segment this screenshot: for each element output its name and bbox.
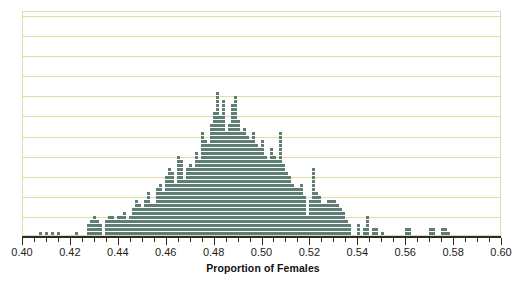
dot [180, 176, 183, 179]
dot [312, 180, 315, 183]
dot [222, 116, 225, 119]
dot [279, 140, 282, 143]
dot [201, 136, 204, 139]
dot [111, 216, 114, 219]
x-tick-major [22, 238, 23, 245]
x-tick-minor [465, 238, 466, 242]
dot [303, 208, 306, 211]
dot [201, 132, 204, 135]
dot [261, 144, 264, 147]
dot [288, 176, 291, 179]
dot [45, 232, 48, 235]
dot [339, 208, 342, 211]
x-tick-minor [202, 238, 203, 242]
x-tick-label: 0.58 [442, 246, 463, 258]
dot [303, 204, 306, 207]
x-tick-minor [154, 238, 155, 242]
x-tick-label: 0.42 [59, 246, 80, 258]
dot [318, 196, 321, 199]
dot [234, 96, 237, 99]
dot [312, 168, 315, 171]
dot [288, 180, 291, 183]
dot [216, 96, 219, 99]
x-tick-minor [417, 238, 418, 242]
dot [234, 104, 237, 107]
dot [234, 100, 237, 103]
x-tick-major [166, 238, 167, 245]
dot [99, 232, 102, 235]
x-tick-label: 0.50 [251, 246, 272, 258]
dot [312, 172, 315, 175]
x-tick-minor [82, 238, 83, 242]
dot [216, 108, 219, 111]
dot [216, 92, 219, 95]
dot [444, 228, 447, 231]
x-tick-label: 0.44 [107, 246, 128, 258]
dot [279, 152, 282, 155]
dot [51, 232, 54, 235]
dot [93, 216, 96, 219]
dot [222, 128, 225, 131]
dot [357, 232, 360, 235]
dot [123, 212, 126, 215]
dot [234, 112, 237, 115]
x-tick-minor [489, 238, 490, 242]
dot [333, 200, 336, 203]
dot [312, 176, 315, 179]
x-tick-minor [34, 238, 35, 242]
x-tick-minor [297, 238, 298, 242]
dot [300, 184, 303, 187]
dot [366, 228, 369, 231]
dot [147, 192, 150, 195]
x-tick-minor [393, 238, 394, 242]
dot [270, 152, 273, 155]
x-tick-major [357, 238, 358, 245]
dot [366, 220, 369, 223]
dot [348, 224, 351, 227]
dot [243, 128, 246, 131]
dot [252, 140, 255, 143]
x-axis-title: Proportion of Females [0, 262, 526, 274]
dot [432, 228, 435, 231]
dot [180, 160, 183, 163]
dot [222, 124, 225, 127]
dot [237, 124, 240, 127]
x-tick-major [118, 238, 119, 245]
chart-figure: Sampling Distribution of Proportion 0.40… [0, 0, 526, 283]
x-tick-minor [273, 238, 274, 242]
dot [180, 164, 183, 167]
dot [138, 204, 141, 207]
x-tick-minor [46, 238, 47, 242]
dot [342, 212, 345, 215]
dot [216, 104, 219, 107]
dot [279, 160, 282, 163]
dot [432, 232, 435, 235]
dot [303, 200, 306, 203]
dot [273, 156, 276, 159]
x-tick-minor [369, 238, 370, 242]
dot [282, 164, 285, 167]
dot [312, 184, 315, 187]
dot [195, 152, 198, 155]
dot [348, 232, 351, 235]
dot [216, 112, 219, 115]
x-tick-label: 0.48 [203, 246, 224, 258]
dot [57, 232, 60, 235]
x-tick-major [70, 238, 71, 245]
dot [234, 108, 237, 111]
dot [195, 156, 198, 159]
dot [222, 104, 225, 107]
x-tick-major [262, 238, 263, 245]
dot [348, 228, 351, 231]
dot [279, 132, 282, 135]
dot [216, 100, 219, 103]
dot [75, 232, 78, 235]
x-tick-label: 0.54 [347, 246, 368, 258]
dot [123, 216, 126, 219]
dot [408, 232, 411, 235]
dot [264, 156, 267, 159]
dot [375, 232, 378, 235]
dot [300, 188, 303, 191]
dot [222, 120, 225, 123]
dot [270, 148, 273, 151]
